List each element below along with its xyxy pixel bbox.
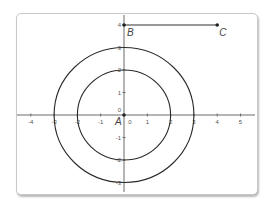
y-tick-label: 4 bbox=[118, 22, 122, 28]
y-zero-label: 0 bbox=[118, 107, 122, 113]
y-tick-label: 1 bbox=[118, 90, 122, 96]
x-zero-label: 0 bbox=[128, 119, 132, 125]
y-tick-label: -1 bbox=[116, 135, 122, 141]
x-tick-label: 5 bbox=[239, 119, 243, 125]
point-label-B: B bbox=[127, 27, 134, 38]
point-label-C: C bbox=[219, 27, 227, 38]
point-label-A: A bbox=[114, 116, 122, 127]
point-A bbox=[122, 113, 126, 117]
x-tick-label: -1 bbox=[98, 119, 104, 125]
point-B bbox=[122, 23, 126, 27]
x-tick-label: 4 bbox=[216, 119, 220, 125]
x-tick-label: 1 bbox=[146, 119, 150, 125]
x-tick-label: -4 bbox=[28, 119, 34, 125]
coordinate-plane: -4-3-2-1123450 4321-1-2-30 ABC bbox=[0, 0, 266, 206]
